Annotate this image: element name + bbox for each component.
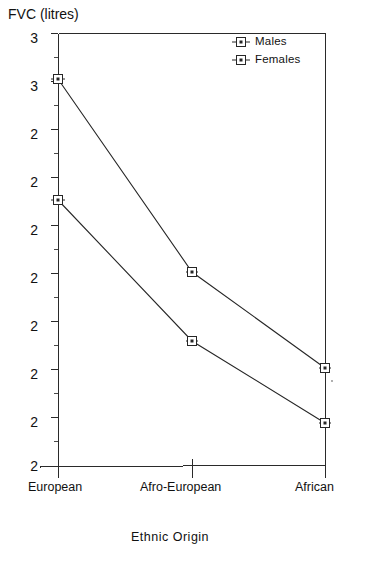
series-males <box>51 75 331 373</box>
y-tick-label: 2 <box>12 271 38 285</box>
y-tick-label: 2 <box>12 127 38 141</box>
y-tick-label: 2 <box>12 415 38 429</box>
legend-label-females: Females <box>255 54 301 66</box>
series-females <box>51 196 331 428</box>
line-chart: FVC (litres) <box>0 0 369 564</box>
x-tick-label-afro-european: Afro-European <box>140 481 221 494</box>
y-tick-label: 2 <box>12 367 38 381</box>
legend-marker-males <box>232 38 250 47</box>
series-males-line <box>58 79 325 368</box>
series-females-markers <box>51 196 331 428</box>
y-tick-label: 2 <box>12 459 38 473</box>
plot-frame <box>41 34 326 468</box>
series-females-line <box>58 200 325 423</box>
x-axis-title: Ethnic Origin <box>131 531 209 544</box>
x-tick-label-european: European <box>28 481 82 494</box>
y-tick-label: 2 <box>12 319 38 333</box>
y-axis-ticks <box>44 34 58 467</box>
series-males-markers <box>51 75 331 373</box>
legend-label-males: Males <box>255 36 287 48</box>
x-tick-label-african: African <box>295 481 334 494</box>
legend-marker-females <box>232 56 250 65</box>
y-tick-label: 2 <box>12 175 38 189</box>
x-axis-line <box>41 465 326 467</box>
legend-markers <box>232 38 250 65</box>
scan-speck <box>331 380 333 382</box>
y-tick-label: 2 <box>12 223 38 237</box>
y-tick-label: 3 <box>12 79 38 93</box>
y-tick-label: 3 <box>12 31 38 45</box>
